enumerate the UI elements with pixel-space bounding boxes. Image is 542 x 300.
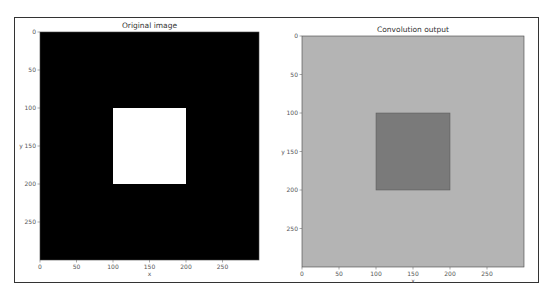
x-tick-label: 100 [107, 263, 119, 270]
y-tick-label: 150 [25, 142, 37, 149]
y-tick-label: 200 [25, 180, 37, 187]
y-tick-label: 250 [25, 218, 37, 225]
y-tick-label: 50 [290, 71, 298, 78]
x-axis-label: x [411, 277, 415, 284]
x-tick-label: 150 [144, 263, 156, 270]
x-tick-label: 200 [444, 270, 456, 277]
y-tick-label: 0 [294, 32, 298, 39]
y-tick-label: 50 [28, 66, 36, 73]
y-tick-label: 150 [287, 148, 299, 155]
subplot-2: Convolution output0501001502002500501001… [281, 25, 524, 284]
image-region [113, 108, 186, 184]
subplot-1: Original image05010015020025005010015020… [19, 21, 259, 277]
y-axis-label: y [19, 142, 23, 150]
x-tick-label: 0 [300, 270, 304, 277]
chart-title: Convolution output [377, 25, 449, 34]
y-axis-label: y [281, 148, 285, 156]
x-tick-label: 250 [217, 263, 229, 270]
y-tick-label: 200 [287, 186, 299, 193]
x-tick-label: 50 [73, 263, 81, 270]
y-tick-label: 0 [32, 28, 36, 35]
x-tick-label: 50 [335, 270, 343, 277]
image-region [376, 113, 450, 190]
figure: Original image05010015020025005010015020… [0, 0, 542, 300]
chart-title: Original image [122, 21, 177, 30]
x-tick-label: 250 [481, 270, 493, 277]
y-tick-label: 100 [25, 104, 37, 111]
x-tick-label: 150 [407, 270, 419, 277]
y-tick-label: 100 [287, 109, 299, 116]
x-tick-label: 200 [180, 263, 192, 270]
y-tick-label: 250 [287, 225, 299, 232]
x-tick-label: 100 [370, 270, 382, 277]
x-axis-label: x [148, 270, 152, 277]
x-tick-label: 0 [38, 263, 42, 270]
